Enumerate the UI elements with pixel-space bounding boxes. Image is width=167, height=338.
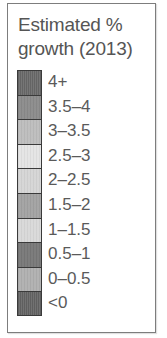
- legend-items: 4+ 3.5–4 3–3.5 2.5–3 2–2.5 1.5–2 1–1.5: [17, 70, 137, 316]
- legend-label: 2.5–3: [48, 145, 91, 167]
- legend-title: Estimated % growth (2013): [18, 13, 154, 61]
- legend-item: 0–0.5: [17, 267, 137, 292]
- legend-label: 3.5–4: [48, 96, 91, 118]
- color-swatch: [17, 242, 42, 267]
- color-swatch: [17, 144, 42, 169]
- color-swatch: [17, 95, 42, 120]
- legend-box: Estimated % growth (2013) 4+ 3.5–4 3–3.5…: [7, 3, 156, 333]
- legend-label: 3–3.5: [48, 120, 91, 142]
- legend-label: 0.5–1: [48, 243, 91, 265]
- legend-title-line-1: Estimated %: [18, 13, 154, 37]
- legend-label: 2–2.5: [48, 169, 91, 191]
- legend-item: 1.5–2: [17, 193, 137, 218]
- color-swatch: [17, 291, 42, 316]
- legend-item: 2–2.5: [17, 168, 137, 193]
- legend-label: 4+: [48, 71, 67, 93]
- legend-item: 1–1.5: [17, 218, 137, 243]
- color-swatch: [17, 119, 42, 144]
- legend-item: 2.5–3: [17, 144, 137, 169]
- color-swatch: [17, 267, 42, 292]
- legend-item: 3.5–4: [17, 95, 137, 120]
- legend-label: 1–1.5: [48, 219, 91, 241]
- legend-label: 1.5–2: [48, 194, 91, 216]
- legend-item: 3–3.5: [17, 119, 137, 144]
- color-swatch: [17, 218, 42, 243]
- legend-item: 0.5–1: [17, 242, 137, 267]
- legend-item: <0: [17, 291, 137, 316]
- color-swatch: [17, 70, 42, 95]
- legend-item: 4+: [17, 70, 137, 95]
- legend-label: 0–0.5: [48, 268, 91, 290]
- legend-title-line-2: growth (2013): [18, 37, 154, 61]
- color-swatch: [17, 193, 42, 218]
- color-swatch: [17, 168, 42, 193]
- legend-label: <0: [48, 292, 67, 314]
